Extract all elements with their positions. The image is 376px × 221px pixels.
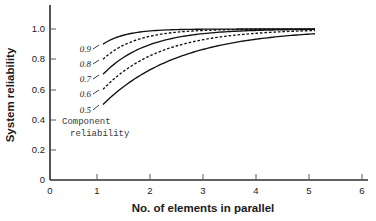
y-tick-label-0.4: 0.4	[32, 114, 45, 125]
curve-label-0.8: 0.8	[80, 59, 92, 69]
annotation-line-2: reliability	[70, 129, 130, 139]
reliability-chart: 1.0 0.8 0.6 0.4 0.2 0 0 1 2 3 4 5 6 No. …	[0, 0, 376, 221]
curve-label-0.6: 0.6	[80, 89, 92, 99]
curve-label-0.9: 0.9	[80, 44, 92, 54]
y-tick-label-0.2: 0.2	[32, 144, 45, 155]
chart-background	[0, 0, 376, 221]
x-axis-title: No. of elements in parallel	[132, 202, 275, 214]
curve-label-0.7: 0.7	[80, 74, 92, 84]
curve-label-0.5: 0.5	[80, 105, 92, 115]
y-tick-label-1.0: 1.0	[32, 23, 45, 34]
x-tick-label-5: 5	[306, 185, 311, 196]
x-tick-label-1: 1	[94, 185, 99, 196]
x-tick-label-2: 2	[147, 185, 152, 196]
x-tick-label-3: 3	[200, 185, 205, 196]
y-axis-title: System reliability	[4, 47, 16, 142]
y-tick-label-0.8: 0.8	[32, 53, 45, 64]
annotation-line-1: Component	[62, 117, 111, 127]
x-tick-label-0: 0	[47, 185, 52, 196]
y-tick-label-0: 0	[40, 174, 45, 185]
x-tick-label-4: 4	[253, 185, 258, 196]
y-tick-label-0.6: 0.6	[32, 84, 45, 95]
x-tick-label-6: 6	[359, 185, 364, 196]
